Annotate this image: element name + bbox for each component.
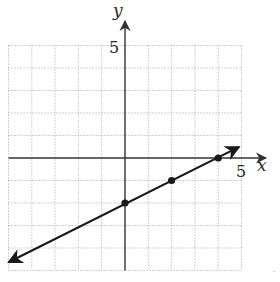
y-tick-label-5: 5 bbox=[109, 38, 119, 57]
coordinate-plane: y 5 5 x . bbox=[0, 0, 280, 282]
data-point bbox=[168, 177, 175, 184]
data-point bbox=[121, 199, 128, 206]
x-axis-label: x bbox=[257, 155, 267, 175]
data-point bbox=[215, 154, 222, 161]
cropped-glyph-fragment: . bbox=[273, 266, 275, 273]
x-tick-label-5: 5 bbox=[236, 162, 246, 181]
y-axis-label: y bbox=[112, 0, 123, 20]
